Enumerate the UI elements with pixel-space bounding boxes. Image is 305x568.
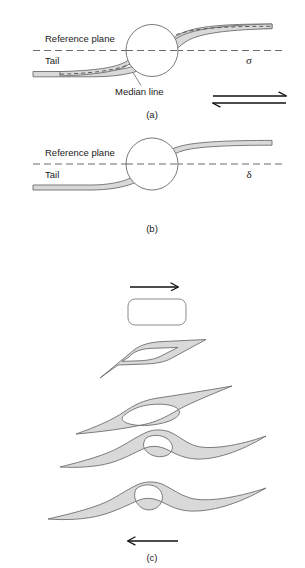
panel-c-letter: (c): [146, 552, 157, 563]
panel-c-top-arrow-right-icon: [130, 283, 179, 291]
panel-a-upper-wing: [173, 24, 272, 53]
panel-c-stage-4-shape: [60, 430, 266, 467]
panel-c-stage-1-shape: [128, 299, 186, 325]
panel-b: Reference plane Tail δ (b): [33, 138, 283, 234]
figure-container: Reference plane Tail Median line σ (a): [0, 0, 305, 568]
panel-b-delta-symbol: δ: [246, 168, 251, 180]
panel-c-stage-3-shape: [76, 386, 232, 434]
panel-a-letter: (a): [146, 109, 158, 120]
panel-b-letter: (b): [146, 223, 158, 234]
panel-a-tail-label: Tail: [45, 55, 59, 66]
panel-a-reference-plane-label: Reference plane: [45, 33, 115, 44]
panel-a-median-leader: [133, 73, 141, 86]
panel-a: Reference plane Tail Median line σ (a): [33, 24, 283, 120]
panel-c-stage-5-shape: [48, 482, 266, 520]
panel-b-tail-label: Tail: [45, 169, 59, 180]
panel-b-reference-plane-label: Reference plane: [45, 147, 115, 158]
panel-c: (c): [48, 283, 266, 563]
panel-c-bottom-arrow-left-icon: [128, 537, 179, 545]
figure-svg: Reference plane Tail Median line σ (a): [0, 0, 305, 568]
panel-a-median-line-label: Median line: [115, 86, 164, 97]
panel-c-stage-2-shape: [100, 340, 206, 379]
panel-a-sigma-symbol: σ: [246, 54, 252, 66]
equilibrium-arrows-icon: [213, 92, 287, 107]
